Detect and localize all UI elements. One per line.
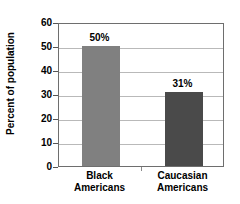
y-axis-title: Percent of population bbox=[0, 0, 20, 167]
category-label-line: Caucasian bbox=[157, 170, 207, 181]
y-axis-tick-label: 40 bbox=[20, 66, 52, 76]
plot-area bbox=[58, 23, 224, 167]
bar[interactable] bbox=[165, 92, 203, 166]
y-axis-tick-label: 60 bbox=[20, 18, 52, 28]
bar[interactable] bbox=[82, 46, 120, 166]
y-axis-tick-label: 20 bbox=[20, 114, 52, 124]
y-axis-title-text: Percent of population bbox=[5, 32, 16, 135]
category-label-line: Americans bbox=[74, 182, 125, 194]
bar-value-label: 31% bbox=[172, 78, 192, 89]
category-label-line: Americans bbox=[157, 182, 208, 194]
bar-chart: Percent of population 0102030405060 50%3… bbox=[0, 0, 240, 204]
x-axis-category-label: BlackAmericans bbox=[74, 170, 125, 194]
category-label-line: Black bbox=[86, 170, 113, 181]
y-axis-tick-mark bbox=[53, 167, 58, 168]
x-axis-category-label: CaucasianAmericans bbox=[157, 170, 208, 194]
y-axis-tick-labels: 0102030405060 bbox=[20, 0, 52, 204]
y-axis-tick-label: 50 bbox=[20, 42, 52, 52]
y-axis-tick-label: 30 bbox=[20, 90, 52, 100]
y-axis-tick-label: 0 bbox=[20, 162, 52, 172]
x-axis-category-tick bbox=[141, 167, 142, 171]
y-axis-tick-label: 10 bbox=[20, 138, 52, 148]
bar-value-label: 50% bbox=[89, 32, 109, 43]
